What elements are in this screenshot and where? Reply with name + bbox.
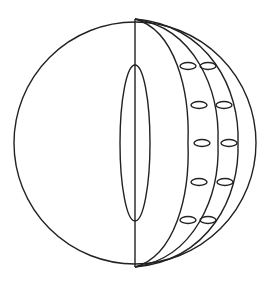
cell-ellipse (200, 217, 216, 224)
cell-ellipse (191, 179, 207, 186)
cell-ellipse (221, 140, 237, 147)
cell-ellipse (200, 63, 216, 70)
cell-ellipse (180, 217, 196, 224)
cell-ellipse (217, 179, 233, 186)
cell-ellipse (180, 63, 196, 70)
cell-ellipse (216, 102, 232, 109)
cell-ellipse (194, 140, 210, 147)
sphere-diagram (0, 0, 264, 282)
inner-meridian-arc (135, 19, 188, 267)
middle-meridian-arc (135, 19, 218, 267)
cell-ellipse (191, 102, 207, 109)
